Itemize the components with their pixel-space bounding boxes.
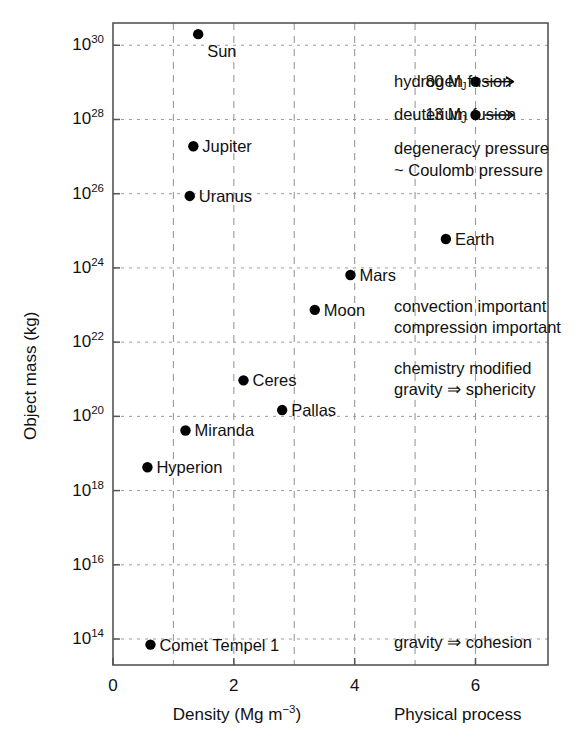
y-tick-label: 1022	[44, 333, 104, 350]
process-annotation: compression important	[394, 319, 561, 336]
data-point-marker	[441, 234, 451, 244]
y-tick-label: 1024	[44, 259, 104, 276]
y-tick-label: 1020	[44, 407, 104, 424]
process-annotation: gravity ⇒ cohesion	[394, 634, 532, 651]
y-tick-label: 1028	[44, 110, 104, 127]
y-tick-label: 1014	[44, 630, 104, 647]
x-axis-title: Density (Mg m−3)	[132, 706, 342, 723]
y-tick-exponent: 22	[91, 330, 104, 342]
data-point-label: Comet Tempel 1	[159, 637, 279, 654]
data-point-label: Ceres	[253, 372, 297, 389]
process-annotation: convection important	[394, 298, 546, 315]
data-point-marker	[193, 29, 203, 39]
process-annotation: degeneracy pressure	[394, 140, 549, 157]
data-point-label: Uranus	[199, 188, 252, 205]
figure-container: 1030102810261024102210201018101610140246…	[0, 0, 579, 748]
x-axis-secondary-title: Physical process	[394, 706, 522, 723]
data-point-label: Moon	[324, 302, 365, 319]
data-point-label: Hyperion	[156, 459, 222, 476]
y-tick-label: 1016	[44, 556, 104, 573]
process-annotation: hydrogen fusion	[394, 73, 511, 90]
y-tick-label: 1026	[44, 185, 104, 202]
data-point-marker	[142, 462, 152, 472]
data-point-marker	[145, 639, 155, 649]
y-tick-exponent: 28	[91, 107, 104, 119]
y-axis-title: Object mass (kg)	[22, 312, 39, 440]
y-tick-exponent: 16	[91, 553, 104, 565]
x-tick-label: 6	[464, 677, 488, 694]
data-point-label: Pallas	[291, 402, 336, 419]
data-point-label: Miranda	[195, 422, 255, 439]
data-point-label: Jupiter	[202, 138, 252, 155]
x-tick-label: 2	[222, 677, 246, 694]
y-tick-exponent: 14	[91, 627, 104, 639]
data-point-marker	[185, 191, 195, 201]
x-axis-exponent: −3	[282, 703, 295, 715]
data-point-marker	[310, 305, 320, 315]
data-point-marker	[345, 270, 355, 280]
y-tick-label: 1018	[44, 482, 104, 499]
data-point-label: Mars	[359, 267, 396, 284]
data-point-marker	[238, 375, 248, 385]
y-tick-label: 1030	[44, 36, 104, 53]
x-tick-label: 4	[343, 677, 367, 694]
y-tick-exponent: 24	[91, 256, 104, 268]
process-annotation: ~ Coulomb pressure	[394, 162, 543, 179]
y-tick-exponent: 30	[91, 33, 104, 45]
data-point-marker	[277, 405, 287, 415]
data-point-label: Earth	[455, 231, 494, 248]
data-point-marker	[188, 141, 198, 151]
y-tick-exponent: 18	[91, 479, 104, 491]
y-tick-exponent: 26	[91, 182, 104, 194]
data-point-marker	[180, 425, 190, 435]
data-point-label: Sun	[207, 43, 236, 60]
y-tick-exponent: 20	[91, 404, 104, 416]
x-tick-label: 0	[101, 677, 125, 694]
process-annotation: gravity ⇒ sphericity	[394, 381, 535, 398]
process-annotation: deuterium fusion	[394, 106, 516, 123]
process-annotation: chemistry modified	[394, 360, 532, 377]
